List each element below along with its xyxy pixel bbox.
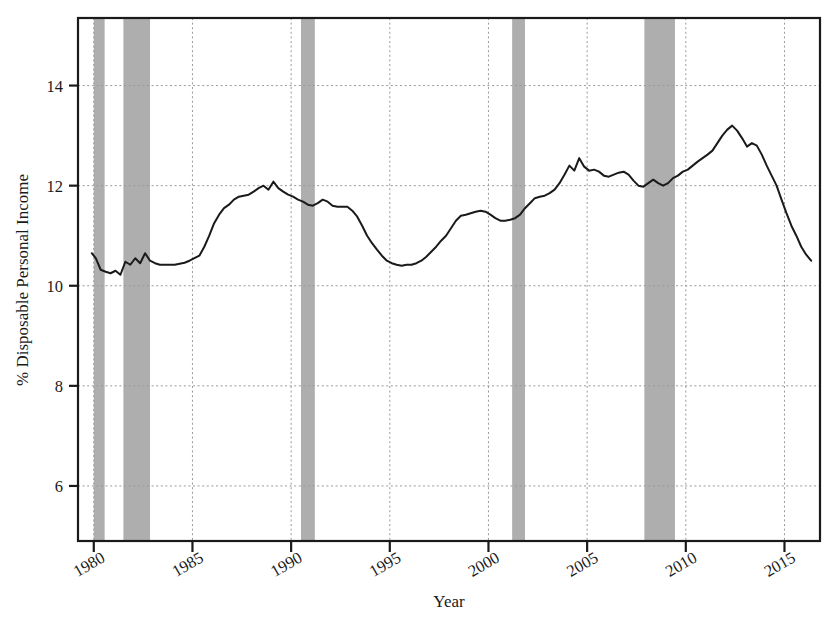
chart-figure: 68101214 1980198519901995200020052010201… xyxy=(0,0,836,622)
y-tick-label: 14 xyxy=(47,77,64,96)
y-axis-title: % Disposable Personal Income xyxy=(13,174,32,386)
y-tick-label: 10 xyxy=(47,277,64,296)
y-tick-label: 12 xyxy=(47,177,64,196)
recession-band xyxy=(512,19,525,541)
personal-saving-rate-line-chart: 68101214 1980198519901995200020052010201… xyxy=(0,0,836,622)
recession-band xyxy=(301,19,315,541)
recession-band xyxy=(123,19,150,541)
x-axis-title: Year xyxy=(433,592,465,611)
recession-band xyxy=(644,19,675,541)
recession-band xyxy=(94,19,105,541)
y-tick-label: 8 xyxy=(55,377,63,396)
y-tick-label: 6 xyxy=(55,477,63,496)
